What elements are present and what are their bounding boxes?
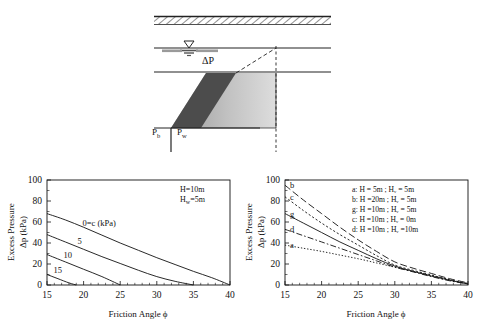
y-tick-label: 100 xyxy=(266,175,281,185)
curve-label-d: d xyxy=(290,224,295,234)
hatched-boundary-icon xyxy=(154,17,331,25)
right-x-ticks: 152025303540 xyxy=(280,281,473,300)
curve-label-15: 15 xyxy=(54,265,63,275)
legend-entry-2: g: H =10m ; Hᵥ = 5m xyxy=(352,205,416,214)
x-tick-label: 30 xyxy=(390,290,400,300)
schematic-diagram: ΔP Pb Pw xyxy=(140,0,350,165)
pb-label-sub: b xyxy=(157,132,160,139)
y-tick-label: 60 xyxy=(271,217,281,227)
legend-entry-3: c: H =10m ; Hᵥ = 0m xyxy=(352,215,416,224)
left-xlabel: Friction Angle ϕ xyxy=(108,309,167,319)
x-tick-label: 20 xyxy=(317,290,327,300)
x-tick-label: 40 xyxy=(463,290,473,300)
y-tick-label: 80 xyxy=(271,196,281,206)
curve-label-c: c xyxy=(290,192,294,202)
left-y-ticks: 020406080100 xyxy=(28,175,51,290)
y-tick-label: 20 xyxy=(33,259,43,269)
left-annot-h: H=10m xyxy=(180,185,205,194)
legend-entry-1: b: H =20m ; Hᵥ = 5m xyxy=(352,195,416,204)
pw-label-sub: w xyxy=(182,132,187,139)
curve-label-0-c-kpa-: 0=c (kPa) xyxy=(83,218,117,228)
right-curve-labels: bcgda xyxy=(290,180,295,250)
curve-5 xyxy=(47,235,193,285)
x-tick-label: 15 xyxy=(280,290,290,300)
delta-p-label: ΔP xyxy=(202,55,214,66)
curve-label-5: 5 xyxy=(78,236,82,246)
x-tick-label: 35 xyxy=(189,290,199,300)
right-legend: a: H = 5m ; Hᵥ = 5mb: H =20m ; Hᵥ = 5mg:… xyxy=(352,185,418,234)
figure-root: ΔP Pb Pw 020406080100 152025303540 0=c (… xyxy=(0,0,480,330)
x-tick-label: 15 xyxy=(42,290,52,300)
x-tick-label: 25 xyxy=(115,290,125,300)
y-tick-label: 100 xyxy=(28,175,43,185)
x-tick-label: 35 xyxy=(427,290,437,300)
pressure-wedge xyxy=(171,73,276,128)
right-y-ticks: 020406080100 xyxy=(266,175,289,290)
left-ylabel-line2: Δp (kPa) xyxy=(18,216,28,248)
x-tick-label: 30 xyxy=(152,290,162,300)
right-ylabel-line1: Excess Pressure xyxy=(244,203,254,261)
curve-label-b: b xyxy=(290,180,294,190)
y-tick-label: 40 xyxy=(271,238,281,248)
y-tick-label: 0 xyxy=(275,280,280,290)
pb-label: Pb xyxy=(152,127,160,139)
x-tick-label: 40 xyxy=(225,290,235,300)
left-curve-labels: 0=c (kPa)51015 xyxy=(54,218,117,275)
right-ylabel-line2: Δp (kPa) xyxy=(256,216,266,248)
y-tick-label: 40 xyxy=(33,238,43,248)
left-curves xyxy=(47,214,230,285)
curve-label-a: a xyxy=(290,240,294,250)
x-tick-label: 20 xyxy=(79,290,89,300)
chart-left: 020406080100 152025303540 0=c (kPa)51015… xyxy=(2,175,240,330)
legend-entry-4: d: H =10m ; Hᵥ =10m xyxy=(352,225,418,234)
y-tick-label: 20 xyxy=(271,259,281,269)
left-ylabel-line1: Excess Pressure xyxy=(6,203,16,261)
x-tick-label: 25 xyxy=(353,290,363,300)
curve-label-10: 10 xyxy=(63,250,72,260)
y-tick-label: 80 xyxy=(33,196,43,206)
legend-entry-0: a: H = 5m ; Hᵥ = 5m xyxy=(352,185,414,194)
chart-right: 020406080100 152025303540 bcgda a: H = 5… xyxy=(240,175,480,330)
right-xlabel: Friction Angle ϕ xyxy=(346,309,405,319)
y-tick-label: 60 xyxy=(33,217,43,227)
curve-0-c-kpa- xyxy=(47,214,230,285)
left-annot-hw: Hw=5m xyxy=(180,195,206,205)
y-tick-label: 0 xyxy=(37,280,42,290)
curve-label-g: g xyxy=(290,209,295,219)
pw-label: Pw xyxy=(177,127,187,139)
